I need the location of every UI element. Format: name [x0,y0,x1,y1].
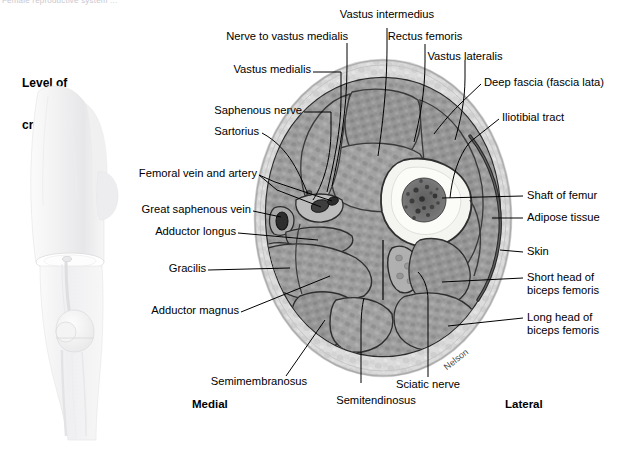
orientation-lateral: Lateral [505,398,543,411]
great-saphenous-vein-section [276,212,288,230]
label-sciatic-nerve: Sciatic nerve [377,378,479,391]
label-semitendinosus: Semitendinosus [324,394,428,407]
anatomy-figure-page: Female reproductive system ... Level of … [0,0,620,450]
orientation-medial: Medial [192,398,228,411]
label-vastus-intermedius: Vastus intermedius [320,8,454,21]
label-gracilis: Gracilis [140,262,206,275]
label-sartorius: Sartorius [170,125,259,138]
label-adductor-magnus: Adductor magnus [128,304,239,317]
label-skin: Skin [527,245,549,258]
label-vastus-lateralis: Vastus lateralis [406,50,524,63]
label-nerve-to-vastus-medialis: Nerve to vastus medialis [180,30,348,43]
label-short-head-biceps-femoris: Short head of biceps femoris [527,271,599,297]
label-femoral-vein-and-artery: Femoral vein and artery [112,167,257,180]
label-adipose-tissue: Adipose tissue [527,211,600,224]
label-semimembranosus: Semimembranosus [206,375,312,388]
label-rectus-femoris: Rectus femoris [366,30,484,43]
label-adductor-longus: Adductor longus [128,225,236,238]
label-vastus-medialis: Vastus medialis [180,63,311,76]
label-iliotibial-tract: Iliotibial tract [502,111,564,124]
label-deep-fascia: Deep fascia (fascia lata) [484,76,604,89]
label-saphenous-nerve: Saphenous nerve [170,104,302,117]
label-great-saphenous-vein: Great saphenous vein [112,203,251,216]
label-long-head-biceps-femoris: Long head of biceps femoris [527,311,599,337]
label-shaft-of-femur: Shaft of femur [527,189,597,202]
